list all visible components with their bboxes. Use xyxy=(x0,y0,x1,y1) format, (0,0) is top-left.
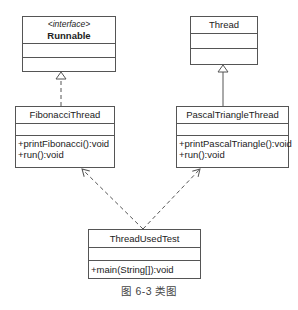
method-item: +run():void xyxy=(177,149,288,160)
methods-compartment: +printFibonacci():void +run():void xyxy=(16,136,114,160)
class-name: Runnable xyxy=(23,29,115,42)
method-item: +printPascalTriangle():void xyxy=(177,138,288,149)
attributes-compartment xyxy=(23,44,115,58)
attributes-compartment xyxy=(16,124,114,136)
hollow-triangle-icon xyxy=(218,65,228,72)
method-item: +run():void xyxy=(16,149,114,160)
generalization-pascal-thread xyxy=(218,65,228,106)
class-name: FibonacciThread xyxy=(16,107,114,124)
stereotype-label: <interface> xyxy=(23,17,115,29)
attributes-compartment xyxy=(177,124,288,136)
class-fibonacci-thread[interactable]: FibonacciThread +printFibonacci():void +… xyxy=(15,106,115,168)
class-runnable[interactable]: <interface> Runnable xyxy=(22,16,116,72)
figure-caption: 图 6-3 类图 xyxy=(0,283,298,298)
method-item: +printFibonacci():void xyxy=(16,138,114,149)
realization-fibonacci-runnable xyxy=(56,72,66,106)
attributes-compartment xyxy=(89,248,200,261)
attributes-compartment xyxy=(191,34,257,49)
class-name: ThreadUsedTest xyxy=(89,230,200,248)
class-thread[interactable]: Thread xyxy=(190,16,258,65)
methods-compartment xyxy=(23,58,115,71)
class-name-compartment: <interface> Runnable xyxy=(23,17,115,44)
methods-compartment xyxy=(191,49,257,64)
class-name: PascalTriangleThread xyxy=(177,107,288,124)
method-item: +main(String[]):void xyxy=(89,264,200,275)
methods-compartment: +printPascalTriangle():void +run():void xyxy=(177,136,288,160)
dependency-test-fibonacci xyxy=(82,169,143,229)
class-pascal-triangle-thread[interactable]: PascalTriangleThread +printPascalTriangl… xyxy=(176,106,289,168)
methods-compartment: +main(String[]):void xyxy=(89,261,200,275)
class-name: Thread xyxy=(191,17,257,34)
dependency-test-pascal xyxy=(143,169,200,229)
hollow-triangle-icon xyxy=(56,72,66,79)
class-thread-used-test[interactable]: ThreadUsedTest +main(String[]):void xyxy=(88,229,201,279)
